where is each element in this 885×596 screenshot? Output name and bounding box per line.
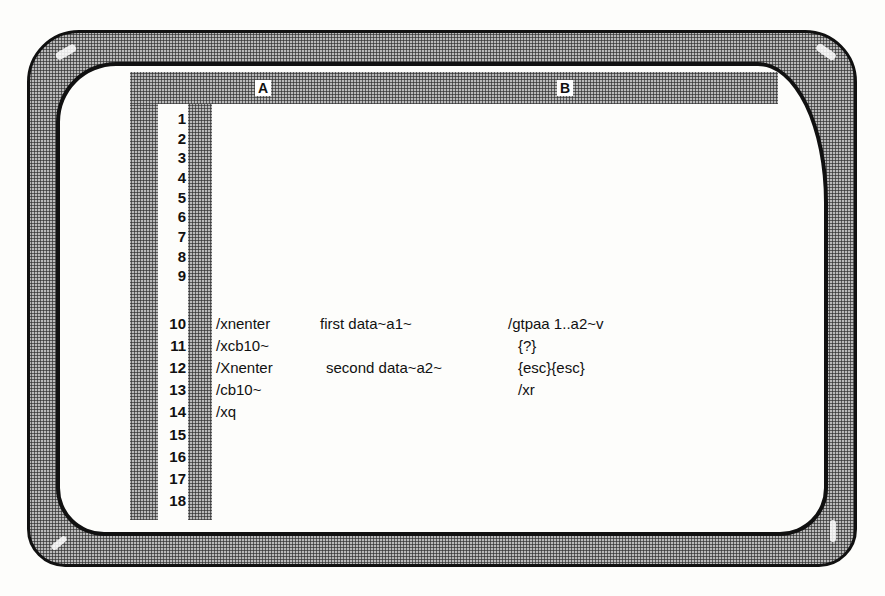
row-number[interactable]: 8 [158,248,186,266]
row-number-column: 1 2 3 4 5 6 7 8 9 10 11 12 13 14 15 16 1… [158,104,188,520]
cell-a13[interactable]: /cb10~ [216,381,261,399]
row-number[interactable]: 7 [158,228,186,246]
row-number[interactable]: 3 [158,149,186,167]
cell-a10[interactable]: /xnenter [216,315,270,333]
column-header-b[interactable]: B [557,80,573,96]
row-number[interactable]: 5 [158,189,186,207]
bezel-glint-bottom-right [830,520,836,542]
cell-a12[interactable]: /Xnenter [216,359,273,377]
row-number[interactable]: 12 [158,359,186,377]
row-number[interactable]: 11 [158,337,186,355]
cell-a12-overflow: second data~a2~ [326,359,442,377]
row-number[interactable]: 1 [158,110,186,128]
row-number[interactable]: 17 [158,470,186,488]
row-number[interactable]: 4 [158,169,186,187]
row-number[interactable]: 6 [158,208,186,226]
cell-a14[interactable]: /xq [216,403,236,421]
row-number[interactable]: 14 [158,403,186,421]
row-number[interactable]: 15 [158,426,186,444]
row-number[interactable]: 18 [158,492,186,510]
cell-a11[interactable]: /xcb10~ [216,337,269,355]
row-number[interactable]: 16 [158,448,186,466]
cell-b12[interactable]: {esc}{esc} [518,359,585,377]
cell-b10[interactable]: /gtpaa 1..a2~v [508,315,604,333]
row-number[interactable]: 10 [158,315,186,333]
row-number[interactable]: 13 [158,381,186,399]
row-number[interactable]: 2 [158,130,186,148]
column-header-a[interactable]: A [255,80,271,96]
row-number[interactable]: 9 [158,267,186,285]
row-header-strip-left [130,104,158,520]
cell-b11[interactable]: {?} [518,337,536,355]
row-header-strip-right [188,104,212,520]
column-header-bar: A B [130,72,778,104]
cell-b13[interactable]: /xr [518,381,535,399]
cell-a10-overflow: first data~a1~ [320,315,412,333]
